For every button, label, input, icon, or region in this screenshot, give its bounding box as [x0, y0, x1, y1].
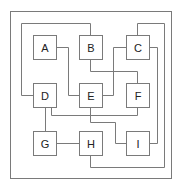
- node-label: B: [87, 42, 94, 54]
- node-b: B: [80, 36, 103, 60]
- node-d: D: [34, 84, 57, 108]
- node-label: A: [41, 42, 49, 54]
- nodes-group: ABCDEFGHI: [34, 36, 150, 156]
- edge-c-i: [150, 48, 158, 144]
- node-label: I: [136, 138, 139, 150]
- node-label: E: [87, 90, 94, 102]
- node-e: E: [80, 84, 103, 108]
- node-label: C: [134, 42, 142, 54]
- node-label: D: [41, 90, 49, 102]
- node-a: A: [34, 36, 57, 60]
- node-h: H: [80, 132, 103, 156]
- node-f: F: [127, 84, 150, 108]
- node-label: G: [41, 138, 50, 150]
- edge-d-f: [52, 108, 138, 116]
- node-label: F: [135, 90, 142, 102]
- node-c: C: [127, 36, 150, 60]
- node-link-diagram: ABCDEFGHI: [0, 0, 181, 187]
- edge-a-e: [57, 48, 80, 96]
- node-i: I: [127, 132, 150, 156]
- node-label: H: [87, 138, 95, 150]
- node-g: G: [34, 132, 57, 156]
